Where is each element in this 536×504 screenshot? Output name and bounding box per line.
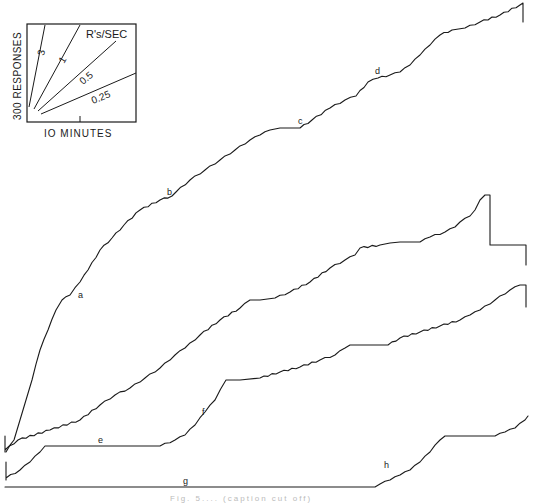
segment-labels: abcdefgh (78, 66, 389, 486)
trace-record-3 (6, 285, 526, 480)
legend-rate-0.25: 0.25 (90, 88, 113, 106)
trace-record-4 (5, 416, 528, 487)
legend-rate-0.5: 0.5 (77, 69, 95, 87)
segment-label-h: h (384, 460, 389, 470)
trace-record-2 (5, 195, 526, 452)
legend-title: R's/SEC (86, 28, 127, 40)
segment-label-g: g (183, 476, 188, 486)
segment-label-c: c (298, 116, 303, 126)
cumulative-record-figure: 3 1 0.5 0.25 R's/SEC IO MINUTES 300 RESP… (0, 0, 536, 504)
rate-legend: 3 1 0.5 0.25 R's/SEC IO MINUTES 300 RESP… (12, 24, 136, 139)
legend-y-scale-label: 300 RESPONSES (12, 32, 23, 120)
segment-label-e: e (98, 435, 103, 445)
segment-label-b: b (167, 187, 172, 197)
segment-label-d: d (375, 66, 380, 76)
legend-rate-3: 3 (35, 48, 47, 56)
legend-rate-1: 1 (56, 54, 69, 65)
figure-caption: Fig. 5.... (caption cut off) (170, 494, 410, 504)
segment-label-a: a (78, 290, 83, 300)
legend-x-scale-label: IO MINUTES (44, 128, 112, 139)
